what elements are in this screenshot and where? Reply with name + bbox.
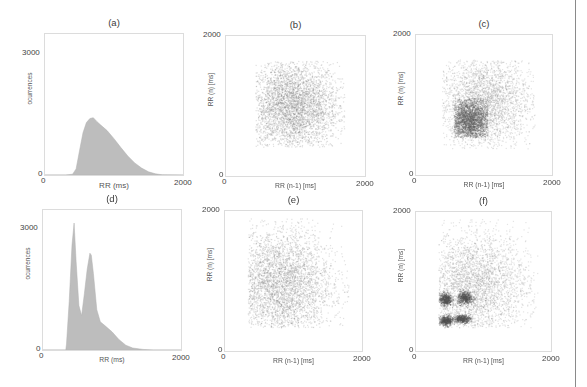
scatter-f	[416, 212, 551, 351]
y-tick-min-e: 0	[218, 345, 222, 354]
y-tick-max-e: 2000	[202, 205, 220, 214]
x-tick-max-e: 2000	[353, 354, 371, 363]
x-axis-label-a: RR (ms)	[74, 181, 154, 190]
plot-area-a	[44, 33, 184, 176]
panel-title-a: (a)	[84, 17, 144, 28]
x-axis-label-e: RR (n-1) [ms]	[254, 357, 334, 364]
plot-area-d	[42, 209, 182, 351]
histogram-a	[45, 34, 183, 175]
plot-area-e	[224, 210, 363, 352]
y-tick-max-c: 2000	[393, 29, 411, 38]
scatter-e	[225, 211, 362, 351]
y-tick-min-c: 0	[409, 169, 413, 178]
panel-title-c: (c)	[454, 18, 514, 29]
x-tick-max-f: 2000	[542, 354, 560, 363]
y-axis-label-c: RR (n) [ms]	[397, 54, 404, 124]
y-tick-max-b: 2000	[203, 30, 221, 39]
x-tick-max-a: 2000	[174, 178, 192, 187]
y-tick-min-b: 0	[219, 170, 223, 179]
x-axis-label-f: RR (n-1) [ms]	[444, 357, 524, 364]
histogram-d	[43, 210, 181, 350]
scatter-b	[226, 36, 365, 176]
y-axis-label-e: RR (n) [ms]	[206, 230, 213, 300]
y-tick-max-f: 2000	[393, 206, 411, 215]
plot-area-c	[415, 34, 553, 176]
panel-title-e: (e)	[264, 194, 324, 205]
y-tick-min-f: 0	[409, 345, 413, 354]
x-axis-label-d: RR (ms)	[72, 356, 152, 363]
y-axis-label-f: RR (n) [ms]	[397, 230, 404, 300]
page-edge-divider	[575, 0, 576, 387]
y-axis-label-a: ocurrences	[26, 53, 33, 123]
plot-area-b	[225, 35, 366, 177]
y-tick-min-d: 0	[36, 344, 40, 353]
y-axis-label-b: RR (n) [ms]	[207, 55, 214, 125]
y-axis-label-d: ocurrences	[24, 229, 31, 299]
x-tick-max-d: 2000	[172, 353, 190, 362]
y-tick-min-a: 0	[38, 169, 42, 178]
x-tick-max-c: 2000	[543, 178, 561, 187]
x-axis-label-b: RR (n-1) [ms]	[256, 182, 336, 189]
x-tick-max-b: 2000	[356, 179, 374, 188]
panel-title-b: (b)	[266, 19, 326, 30]
scatter-c	[416, 35, 552, 175]
panel-title-d: (d)	[82, 193, 142, 204]
panel-title-f: (f)	[454, 195, 514, 206]
x-axis-label-c: RR (n-1) [ms]	[444, 181, 524, 188]
plot-area-f	[415, 211, 552, 352]
